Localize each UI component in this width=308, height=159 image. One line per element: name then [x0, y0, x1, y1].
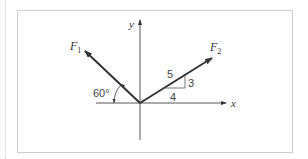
- angle-arc-60: [113, 84, 126, 103]
- label-angle-60: 60°: [93, 87, 110, 99]
- label-f1: F1: [69, 39, 81, 55]
- label-x-axis: x: [230, 97, 236, 109]
- label-f2: F2: [209, 40, 221, 56]
- label-hyp-5: 5: [167, 68, 173, 80]
- force-diagram: F1 F2 y x 60° 5 3 4: [0, 0, 308, 159]
- label-run-4: 4: [170, 91, 176, 103]
- label-rise-3: 3: [188, 77, 194, 89]
- label-y-axis: y: [128, 18, 134, 30]
